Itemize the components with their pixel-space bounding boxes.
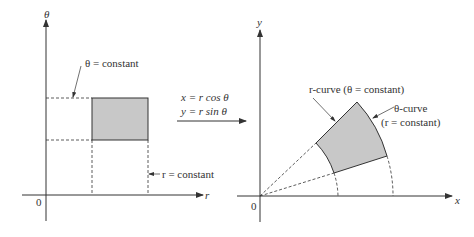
dash-arc-inner [334, 173, 338, 196]
transform-mapping: x = r cos θ y = r sin θ [177, 91, 246, 121]
theta-curve-label-1: θ-curve [394, 102, 427, 114]
rectangle-region [92, 98, 148, 140]
transform-eq-x: x = r cos θ [180, 91, 229, 103]
dash-arc-outer [387, 156, 393, 196]
r-curve-label: r-curve (θ = constant) [309, 83, 405, 96]
transform-eq-y: y = r sin θ [180, 105, 227, 117]
theta-curve-label-2: (r = constant) [381, 116, 441, 129]
r-const-label: r = constant [162, 168, 214, 180]
x-axis-label: x [454, 194, 460, 206]
polar-coordinate-mapping-diagram: θ r 0 θ = constant r = constant x = r co… [0, 0, 474, 237]
y-axis-label: y [256, 16, 262, 28]
r-curve-pointer [313, 98, 335, 121]
r-axis-label: r [205, 189, 210, 201]
theta-const-label: θ = constant [85, 57, 139, 69]
dash-ray-upper [260, 143, 316, 196]
left-origin-label: 0 [36, 196, 42, 208]
right-origin-label: 0 [251, 200, 257, 212]
dash-ray-lower [260, 173, 334, 196]
theta-axis-label: θ [44, 8, 50, 20]
theta-const-pointer [73, 66, 81, 97]
diagram-svg: θ r 0 θ = constant r = constant x = r co… [0, 0, 474, 237]
right-plot: y x 0 r-curve (θ = constant) θ-curve (r … [237, 16, 460, 222]
